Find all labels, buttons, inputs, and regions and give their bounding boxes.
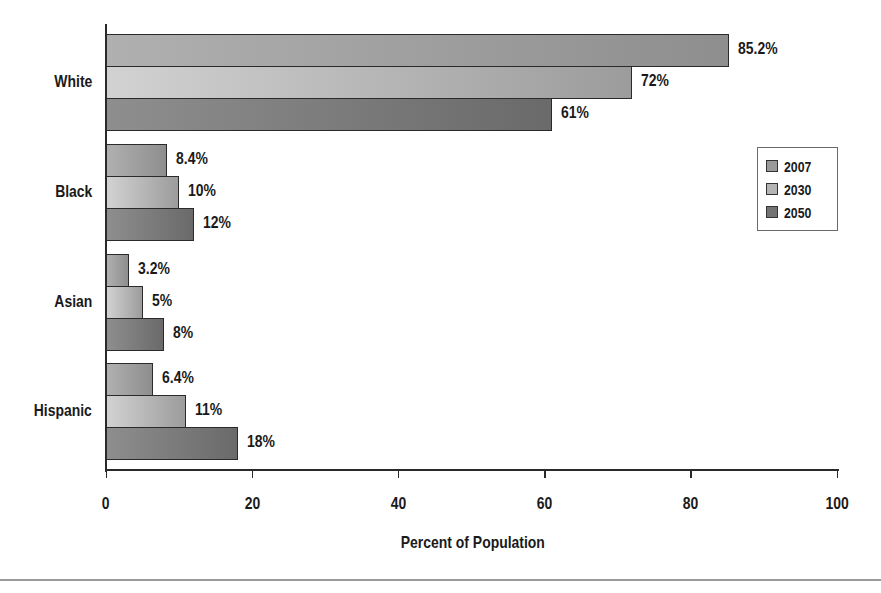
bar-black-2030 [106,176,179,209]
value-label-hispanic-2007: 6.4% [162,368,201,388]
x-tick-mark [398,471,400,478]
x-tick-label: 40 [368,494,428,514]
bar-white-2030 [106,66,632,99]
bar-white-2050 [106,98,552,131]
value-label-white-2007: 85.2% [738,39,786,59]
x-tick-mark [544,471,546,478]
value-label-asian-2030: 5% [152,291,177,311]
legend-item-2030: 2030 [766,180,817,198]
bar-hispanic-2007 [106,363,153,396]
x-axis-line [105,469,839,471]
x-tick-label: 20 [222,494,282,514]
x-tick-label: 0 [76,494,136,514]
value-label-black-2007: 8.4% [176,149,215,169]
bar-hispanic-2050 [106,427,238,460]
legend-swatch-2007 [766,160,778,172]
value-label-white-2050: 61% [561,103,595,123]
x-tick-mark [837,471,839,478]
bar-black-2007 [106,144,167,177]
category-label-asian: Asian [0,292,92,312]
x-tick-mark [690,471,692,478]
category-label-hispanic: Hispanic [0,401,92,421]
legend-label: 2030 [784,181,817,198]
x-tick-mark [106,471,108,478]
value-label-black-2050: 12% [203,213,237,233]
value-label-hispanic-2030: 11% [195,400,228,420]
x-tick-mark [252,471,254,478]
legend-swatch-2030 [766,183,778,195]
legend-item-2007: 2007 [766,157,817,175]
value-label-white-2030: 72% [641,71,675,91]
value-label-black-2030: 10% [188,181,222,201]
legend-label: 2050 [784,204,817,221]
value-label-asian-2007: 3.2% [138,259,177,279]
bar-asian-2007 [106,254,129,287]
y-axis-line [105,24,107,472]
legend: 2007 2030 2050 [757,147,838,231]
bottom-divider [0,579,881,581]
legend-swatch-2050 [766,206,778,218]
population-bar-chart: White Black Asian Hispanic 85.2%72%61%8.… [0,0,881,593]
x-tick-label: 60 [515,494,575,514]
bar-asian-2050 [106,318,164,351]
category-label-white: White [0,72,92,92]
bar-black-2050 [106,208,194,241]
bar-white-2007 [106,34,729,67]
value-label-asian-2050: 8% [173,323,198,343]
value-label-hispanic-2050: 18% [247,432,281,452]
x-tick-label: 100 [807,494,867,514]
legend-item-2050: 2050 [766,203,817,221]
bar-hispanic-2030 [106,395,186,428]
x-axis-title: Percent of Population [373,533,573,553]
x-tick-label: 80 [661,494,721,514]
category-label-black: Black [0,182,92,202]
legend-label: 2007 [784,158,817,175]
bar-asian-2030 [106,286,143,319]
